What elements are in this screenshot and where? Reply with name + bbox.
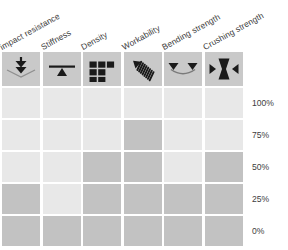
workability-icon <box>124 52 162 86</box>
percentage-axis: 100%75%50%25%0% <box>249 88 288 248</box>
density-icon <box>83 52 121 86</box>
heatmap-cell <box>83 184 121 214</box>
heatmap-cell <box>43 216 81 246</box>
axis-tick-25pct: 25% <box>252 194 269 204</box>
axis-tick-75pct: 75% <box>252 130 269 140</box>
crushing-strength-icon <box>205 52 243 86</box>
heatmap-cell <box>124 216 162 246</box>
heatmap-cell <box>43 184 81 214</box>
heatmap-cell <box>164 120 202 150</box>
heatmap-cell <box>2 216 40 246</box>
column-label-3: Density <box>79 29 109 52</box>
heatmap-cell <box>83 88 121 118</box>
heatmap-cell <box>124 120 162 150</box>
heatmap-cell <box>164 184 202 214</box>
heatmap-cell <box>124 152 162 182</box>
heatmap-cell <box>164 88 202 118</box>
column-label-2: Stiffness <box>39 27 73 52</box>
heatmap-cell <box>43 120 81 150</box>
heatmap-cell <box>124 88 162 118</box>
heatmap-cell <box>205 184 243 214</box>
property-icon-row <box>2 52 245 86</box>
heatmap-cell <box>124 184 162 214</box>
heatmap-cell <box>2 120 40 150</box>
material-property-heatmap: impact resistanceStiffnessDensityWorkabi… <box>0 0 288 250</box>
heatmap-cell <box>205 88 243 118</box>
heatmap-cell <box>83 152 121 182</box>
heatmap-grid <box>2 88 245 248</box>
stiffness-icon <box>43 52 81 86</box>
axis-tick-0pct: 0% <box>252 226 264 236</box>
heatmap-cell <box>2 184 40 214</box>
impact-resistance-icon <box>2 52 40 86</box>
axis-tick-100pct: 100% <box>252 98 274 108</box>
heatmap-cell <box>2 88 40 118</box>
heatmap-cell <box>43 152 81 182</box>
column-label-4: Workability <box>120 23 162 52</box>
heatmap-cell <box>205 152 243 182</box>
heatmap-cell <box>205 216 243 246</box>
heatmap-cell <box>205 120 243 150</box>
heatmap-cell <box>2 152 40 182</box>
heatmap-cell <box>83 120 121 150</box>
bending-strength-icon <box>164 52 202 86</box>
heatmap-cell <box>164 216 202 246</box>
heatmap-cell <box>83 216 121 246</box>
heatmap-cell <box>43 88 81 118</box>
heatmap-cell <box>164 152 202 182</box>
axis-tick-50pct: 50% <box>252 162 269 172</box>
column-header-labels: impact resistanceStiffnessDensityWorkabi… <box>0 0 288 52</box>
